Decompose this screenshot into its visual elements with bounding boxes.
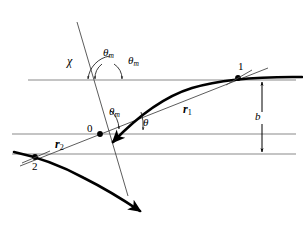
theta-m-top-left-label: θm <box>103 47 114 60</box>
asymptote-lines <box>20 22 268 196</box>
theta-m-origin-label: θm <box>109 106 120 119</box>
theta-m-top-right-label: θm <box>128 55 139 68</box>
impact-parameter-label: b <box>255 111 261 122</box>
point-two-label: 2 <box>32 161 38 172</box>
r1-vector-label: r1 <box>183 103 192 117</box>
upper-hyperbola-branch <box>113 77 302 142</box>
chi-angle-label: χ <box>67 55 72 67</box>
r2-vector-label: r2 <box>55 138 64 152</box>
theta-m-left-arc <box>95 64 102 79</box>
origin-label: 0 <box>87 123 93 134</box>
origin-point-marker <box>97 131 103 137</box>
theta-m-right-arc <box>114 64 122 79</box>
theta-angle-label: θ <box>143 117 148 128</box>
point-one-label: 1 <box>238 61 244 72</box>
scattering-orbit-figure: χ θm θm θm θ r1 r2 b 0 1 2 <box>0 0 303 228</box>
